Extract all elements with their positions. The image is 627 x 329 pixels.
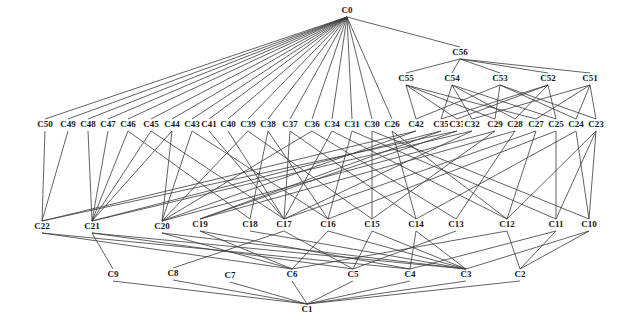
edge-C43-C20 — [162, 131, 192, 221]
edge-C55-C33 — [406, 85, 457, 119]
edge-C0-C26 — [347, 17, 392, 119]
edge-C11-C2 — [520, 231, 556, 269]
node-c30: C30 — [364, 119, 380, 129]
node-c19: C19 — [192, 219, 208, 229]
node-c49: C49 — [60, 119, 76, 129]
edge-C56-C52 — [460, 59, 548, 73]
node-c34: C34 — [324, 119, 340, 129]
edge-C32-C21 — [92, 131, 472, 221]
edge-C2-C1 — [307, 281, 520, 304]
node-c32: C32 — [464, 119, 480, 129]
edge-C0-C44 — [172, 17, 347, 119]
node-c25: C25 — [548, 119, 564, 129]
node-c28: C28 — [507, 119, 523, 129]
node-c31: C31 — [344, 119, 360, 129]
node-c18: C18 — [242, 219, 258, 229]
lattice-diagram: C0C56C55C54C53C52C51C50C49C48C47C46C45C4… — [0, 0, 627, 329]
node-c26: C26 — [384, 119, 400, 129]
node-c11: C11 — [548, 219, 564, 229]
edge-C33-C22 — [42, 131, 457, 221]
edge-C50-C22 — [42, 131, 45, 221]
node-c45: C45 — [143, 119, 159, 129]
edge-C42-C22 — [42, 131, 416, 221]
node-c52: C52 — [540, 73, 556, 83]
node-c44: C44 — [164, 119, 180, 129]
node-c6: C6 — [287, 269, 298, 279]
node-c33: C33 — [449, 119, 465, 129]
edge-C39-C20 — [162, 131, 248, 221]
edge-C19-C4 — [200, 231, 410, 269]
node-c35: C35 — [433, 119, 449, 129]
node-c38: C38 — [260, 119, 276, 129]
edge-C0-C43 — [192, 17, 347, 119]
node-c13: C13 — [448, 219, 464, 229]
node-c47: C47 — [100, 119, 116, 129]
edge-C10-C2 — [520, 231, 589, 269]
node-c55: C55 — [398, 73, 414, 83]
node-c22: C22 — [34, 221, 50, 231]
node-c27: C27 — [528, 119, 544, 129]
edge-C12-C2 — [507, 231, 520, 269]
node-c17: C17 — [276, 219, 292, 229]
node-c4: C4 — [405, 269, 416, 279]
edge-C0-C46 — [128, 17, 347, 119]
edge-C0-C48 — [88, 17, 347, 119]
edge-C56-C55 — [406, 59, 460, 73]
edge-C53-C24 — [500, 85, 576, 119]
node-c42: C42 — [408, 119, 424, 129]
edge-layer — [42, 17, 596, 304]
edge-C0-C34 — [332, 17, 347, 119]
node-c0: C0 — [342, 5, 353, 15]
node-c8: C8 — [168, 268, 179, 278]
edge-C0-C37 — [290, 17, 347, 119]
edge-C0-C31 — [347, 17, 352, 119]
node-c3: C3 — [461, 269, 472, 279]
edge-C7-C1 — [230, 282, 307, 304]
node-c20: C20 — [154, 221, 170, 231]
node-c23: C23 — [588, 119, 604, 129]
node-c41: C41 — [201, 119, 217, 129]
edge-C38-C16 — [268, 131, 328, 219]
edge-C0-C49 — [68, 17, 347, 119]
edge-C55-C42 — [406, 85, 416, 119]
edge-C12-C6 — [292, 231, 507, 269]
node-c51: C51 — [582, 73, 598, 83]
node-c14: C14 — [408, 219, 424, 229]
edge-C0-C47 — [108, 17, 347, 119]
node-c53: C53 — [492, 73, 508, 83]
edge-C49-C22 — [42, 131, 68, 221]
edge-C0-C50 — [45, 17, 347, 119]
node-c43: C43 — [184, 119, 200, 129]
node-c48: C48 — [80, 119, 96, 129]
edge-C51-C23 — [590, 85, 596, 119]
edge-C48-C21 — [88, 131, 92, 221]
node-c7: C7 — [225, 270, 236, 280]
node-c56: C56 — [452, 47, 468, 57]
node-c21: C21 — [84, 221, 100, 231]
edge-C11-C4 — [410, 231, 556, 269]
edge-C54-C28 — [452, 85, 515, 119]
node-c37: C37 — [282, 119, 298, 129]
edge-C9-C1 — [113, 281, 307, 304]
node-c36: C36 — [304, 119, 320, 129]
edge-C21-C9 — [92, 233, 113, 269]
node-c16: C16 — [320, 219, 336, 229]
node-c9: C9 — [108, 269, 119, 279]
edge-C54-C25 — [452, 85, 556, 119]
node-c46: C46 — [120, 119, 136, 129]
edge-C18-C3 — [250, 231, 466, 269]
edge-C17-C5 — [284, 231, 353, 269]
edge-C20-C6 — [162, 233, 292, 269]
node-c1: C1 — [302, 304, 313, 314]
edge-C51-C24 — [576, 85, 590, 119]
edge-C52-C25 — [548, 85, 556, 119]
node-c2: C2 — [515, 269, 526, 279]
node-c29: C29 — [487, 119, 503, 129]
node-c5: C5 — [348, 269, 359, 279]
node-c12: C12 — [499, 219, 515, 229]
edge-C0-C56 — [347, 17, 460, 47]
edge-C0-C41 — [209, 17, 347, 119]
concept-lattice-graph: C0C56C55C54C53C52C51C50C49C48C47C46C45C4… — [0, 0, 627, 329]
edge-C27-C17 — [284, 131, 536, 219]
node-c10: C10 — [581, 219, 597, 229]
